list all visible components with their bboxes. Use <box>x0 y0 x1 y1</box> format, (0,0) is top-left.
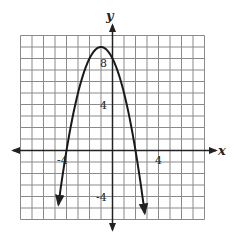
parabola-chart: y x 8 4 -4 -4 4 <box>0 0 234 240</box>
tick-label-y-4: 4 <box>100 99 107 112</box>
y-axis-label: y <box>105 8 115 23</box>
x-axis-label: x <box>217 143 226 158</box>
parabola-curve <box>58 47 144 213</box>
tick-label-x-4: 4 <box>155 154 162 167</box>
tick-label-y-neg4: -4 <box>96 191 107 204</box>
tick-label-x-neg4: -4 <box>57 154 68 167</box>
tick-label-y-8: 8 <box>100 57 107 70</box>
